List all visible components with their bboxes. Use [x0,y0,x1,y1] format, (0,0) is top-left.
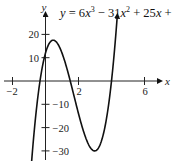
y-axis-label: y [41,1,47,13]
axes: xy [4,1,170,160]
x-axis-label: x [164,75,170,87]
x-tick-label: −2 [7,86,18,97]
x-tick-label: 6 [143,86,148,97]
cubic-curve [31,16,117,161]
y-tick-label: 10 [29,53,40,64]
x-tick-label: 2 [77,86,82,97]
ticks: −2262010−10−20−30 [7,29,148,156]
y-tick-label: −30 [53,146,69,157]
y-tick-label: −10 [53,99,69,110]
y-tick-label: −20 [53,123,69,134]
y-tick-label: 20 [29,29,40,40]
cubic-graph: xy −2262010−10−20−30 [0,0,183,161]
